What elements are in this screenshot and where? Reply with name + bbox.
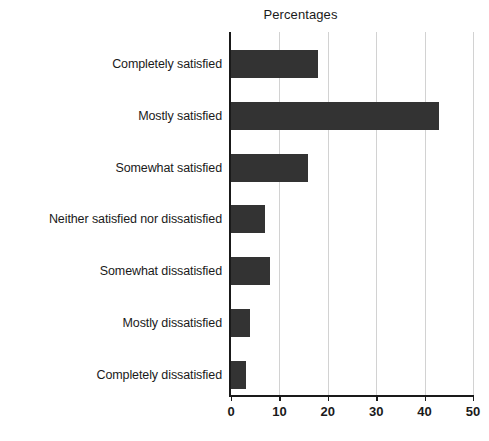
- x-tick-label-50: 50: [466, 404, 480, 419]
- x-tick-label-40: 40: [417, 404, 431, 419]
- x-tick-30: [376, 395, 377, 401]
- x-axis-line: [229, 395, 473, 397]
- x-tick-40: [425, 395, 426, 401]
- x-tick-label-10: 10: [272, 404, 286, 419]
- gridline-30: [376, 32, 377, 395]
- gridline-40: [425, 32, 426, 395]
- plot-area: 01020304050: [231, 32, 473, 395]
- x-tick-0: [231, 395, 232, 401]
- category-label: Somewhat satisfied: [0, 161, 222, 175]
- x-tick-50: [473, 395, 474, 401]
- bar: [231, 154, 308, 182]
- x-tick-20: [328, 395, 329, 401]
- gridline-50: [473, 32, 474, 395]
- gridline-10: [279, 32, 280, 395]
- category-label: Mostly dissatisfied: [0, 316, 222, 330]
- category-label: Completely satisfied: [0, 57, 222, 71]
- bar: [231, 257, 270, 285]
- category-label: Mostly satisfied: [0, 109, 222, 123]
- category-label: Somewhat dissatisfied: [0, 264, 222, 278]
- x-tick-10: [279, 395, 280, 401]
- bar: [231, 102, 439, 130]
- bar: [231, 309, 250, 337]
- category-label: Completely dissatisfied: [0, 368, 222, 382]
- x-tick-label-20: 20: [321, 404, 335, 419]
- bar: [231, 205, 265, 233]
- category-axis: Completely satisfiedMostly satisfiedSome…: [0, 32, 226, 395]
- bar: [231, 361, 246, 389]
- gridline-20: [328, 32, 329, 395]
- x-tick-label-0: 0: [227, 404, 234, 419]
- x-tick-label-30: 30: [369, 404, 383, 419]
- category-label: Neither satisfied nor dissatisfied: [0, 212, 222, 226]
- chart-title: Percentages: [0, 7, 489, 22]
- bar: [231, 50, 318, 78]
- bar-chart: Percentages Completely satisfiedMostly s…: [0, 0, 489, 441]
